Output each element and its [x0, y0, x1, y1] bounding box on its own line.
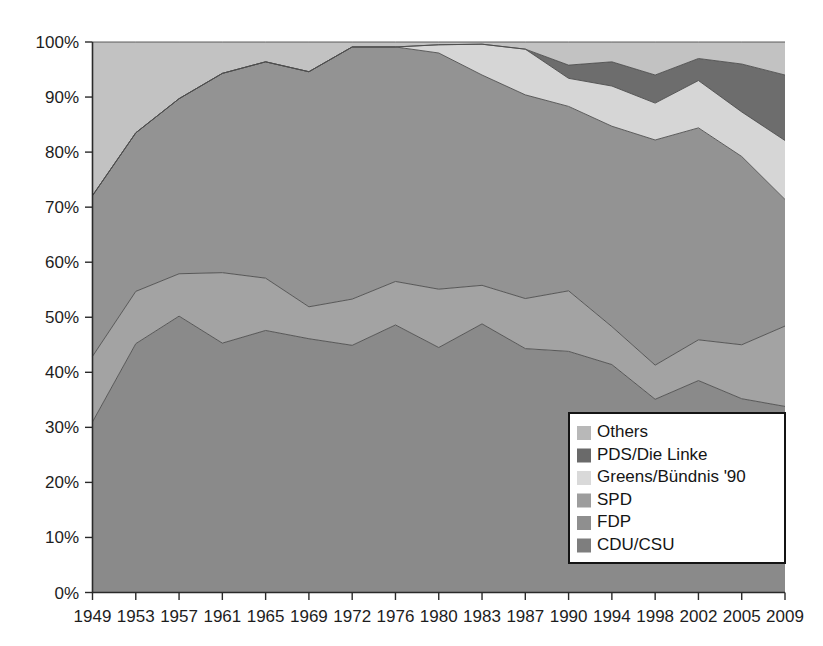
x-tick-label: 1949	[74, 607, 112, 626]
legend-label[interactable]: Others	[597, 422, 648, 441]
x-tick-label: 1969	[290, 607, 328, 626]
x-tick-label: 1980	[420, 607, 458, 626]
legend-swatch[interactable]	[577, 494, 591, 508]
x-tick-label: 1972	[333, 607, 371, 626]
y-tick-label: 100%	[36, 33, 79, 52]
y-tick-label: 0%	[54, 584, 79, 603]
stacked-area-chart: 0%10%20%30%40%50%60%70%80%90%100% 194919…	[0, 0, 823, 646]
legend-swatch[interactable]	[577, 426, 591, 440]
legend-swatch[interactable]	[577, 516, 591, 530]
x-tick-label: 1965	[247, 607, 285, 626]
y-tick-label: 40%	[45, 363, 79, 382]
y-tick-label: 70%	[45, 198, 79, 217]
x-tick-label: 2009	[766, 607, 804, 626]
chart-legend[interactable]: OthersPDS/Die LinkeGreens/Bündnis '90SPD…	[569, 413, 785, 563]
chart-svg: 0%10%20%30%40%50%60%70%80%90%100% 194919…	[0, 0, 823, 646]
x-tick-label: 1957	[160, 607, 198, 626]
y-tick-label: 10%	[45, 528, 79, 547]
y-tick-label: 90%	[45, 88, 79, 107]
legend-label[interactable]: PDS/Die Linke	[597, 445, 708, 464]
legend-label[interactable]: Greens/Bündnis '90	[597, 467, 746, 486]
y-tick-label: 80%	[45, 143, 79, 162]
legend-swatch[interactable]	[577, 539, 591, 553]
y-tick-label: 50%	[45, 308, 79, 327]
legend-swatch[interactable]	[577, 471, 591, 485]
x-tick-label: 1953	[117, 607, 155, 626]
y-tick-label: 60%	[45, 253, 79, 272]
x-axis-ticks: 1949195319571961196519691972197619801983…	[74, 593, 804, 627]
legend-label[interactable]: CDU/CSU	[597, 535, 674, 554]
x-tick-label: 1990	[550, 607, 588, 626]
x-tick-label: 1976	[377, 607, 415, 626]
legend-label[interactable]: FDP	[597, 512, 631, 531]
x-tick-label: 1961	[203, 607, 241, 626]
x-tick-label: 1987	[506, 607, 544, 626]
x-tick-label: 2005	[723, 607, 761, 626]
legend-label[interactable]: SPD	[597, 490, 632, 509]
legend-swatch[interactable]	[577, 449, 591, 463]
y-axis-ticks: 0%10%20%30%40%50%60%70%80%90%100%	[36, 33, 93, 603]
x-tick-label: 1998	[636, 607, 674, 626]
x-tick-label: 1994	[593, 607, 631, 626]
y-tick-label: 30%	[45, 418, 79, 437]
x-tick-label: 1983	[463, 607, 501, 626]
x-tick-label: 2002	[680, 607, 718, 626]
y-tick-label: 20%	[45, 473, 79, 492]
